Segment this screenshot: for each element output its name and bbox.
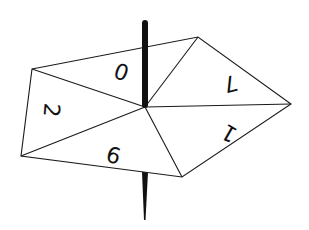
spinner-diagram: 0 7 1 6 2 <box>0 0 309 230</box>
stick-bottom <box>142 172 148 220</box>
stick-top <box>142 20 148 108</box>
section-label-2: 2 <box>38 102 64 118</box>
